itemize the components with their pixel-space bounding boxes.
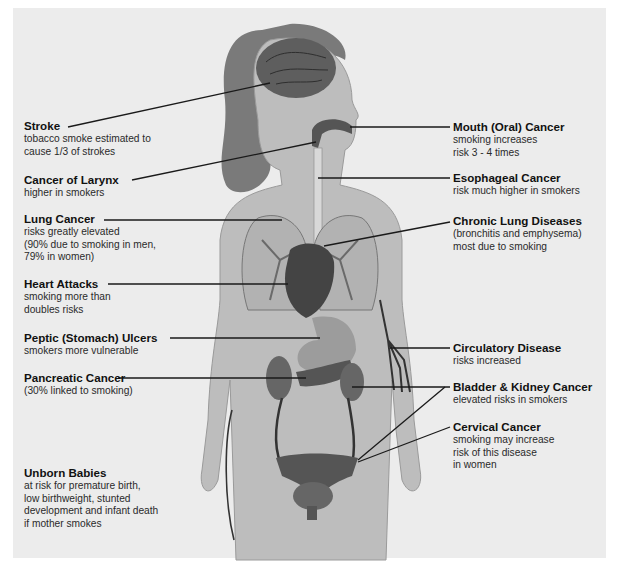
label-chronic-lung-diseases: Chronic Lung Diseases (bronchitis and em… — [453, 214, 582, 253]
bladder — [293, 482, 333, 510]
label-description: (30% linked to smoking) — [24, 385, 133, 398]
right-kidney — [340, 363, 364, 401]
label-esophageal-cancer: Esophageal Cancer risk much higher in sm… — [453, 171, 580, 198]
brain — [256, 38, 336, 98]
label-description: smokers more vulnerable — [24, 345, 157, 358]
label-pancreatic-cancer: Pancreatic Cancer (30% linked to smoking… — [24, 371, 133, 398]
label-description: at risk for premature birth, low birthwe… — [24, 480, 158, 530]
label-description: smoking more than doubles risks — [24, 291, 111, 316]
label-lung-cancer: Lung Cancer risks greatly elevated (90% … — [24, 212, 156, 264]
label-title: Mouth (Oral) Cancer — [453, 120, 564, 134]
label-circulatory-disease: Circulatory Disease risks increased — [453, 341, 561, 368]
label-description: risks increased — [453, 355, 561, 368]
label-title: Lung Cancer — [24, 212, 156, 226]
label-title: Chronic Lung Diseases — [453, 214, 582, 228]
label-heart-attacks: Heart Attacks smoking more than doubles … — [24, 277, 111, 316]
label-title: Heart Attacks — [24, 277, 111, 291]
label-cervical-cancer: Cervical Cancer smoking may increase ris… — [453, 420, 554, 472]
label-title: Unborn Babies — [24, 466, 158, 480]
label-title: Cervical Cancer — [453, 420, 554, 434]
label-peptic-ulcers: Peptic (Stomach) Ulcers smokers more vul… — [24, 331, 157, 358]
label-unborn-babies: Unborn Babies at risk for premature birt… — [24, 466, 158, 530]
label-bladder-kidney-cancer: Bladder & Kidney Cancer elevated risks i… — [453, 380, 592, 407]
label-description: risk much higher in smokers — [453, 185, 580, 198]
label-description: smoking increases risk 3 - 4 times — [453, 134, 564, 159]
label-description: tobacco smoke estimated to cause 1/3 of … — [24, 133, 151, 158]
label-description: smoking may increase risk of this diseas… — [453, 434, 554, 472]
label-title: Pancreatic Cancer — [24, 371, 133, 385]
label-title: Circulatory Disease — [453, 341, 561, 355]
label-description: (bronchitis and emphysema) most due to s… — [453, 228, 582, 253]
label-title: Bladder & Kidney Cancer — [453, 380, 592, 394]
cervix — [307, 506, 317, 520]
label-title: Esophageal Cancer — [453, 171, 580, 185]
label-cancer-of-larynx: Cancer of Larynx higher in smokers — [24, 173, 119, 200]
label-title: Stroke — [24, 119, 151, 133]
label-description: elevated risks in smokers — [453, 394, 592, 407]
label-mouth-cancer: Mouth (Oral) Cancer smoking increases ri… — [453, 120, 564, 159]
label-title: Cancer of Larynx — [24, 173, 119, 187]
label-description: higher in smokers — [24, 187, 119, 200]
label-title: Peptic (Stomach) Ulcers — [24, 331, 157, 345]
label-stroke: Stroke tobacco smoke estimated to cause … — [24, 119, 151, 158]
label-description: risks greatly elevated (90% due to smoki… — [24, 226, 156, 264]
